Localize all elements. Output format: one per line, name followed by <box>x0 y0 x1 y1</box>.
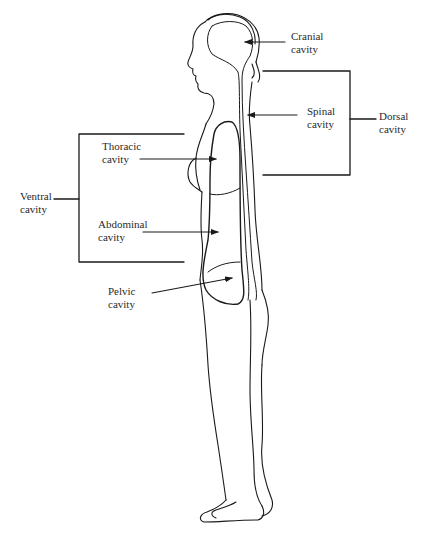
pelvic-cavity-label: Pelvic cavity <box>108 285 136 311</box>
body-figure <box>0 0 428 559</box>
abdominal-cavity-label: Abdominal cavity <box>98 218 148 244</box>
cranial-cavity-label: Cranial cavity <box>291 30 323 56</box>
ventral-cavity-label: Ventral cavity <box>20 190 52 216</box>
thoracic-cavity-label: Thoracic cavity <box>102 140 141 166</box>
dorsal-cavity-outline <box>208 22 257 301</box>
pelvic-arrow <box>152 278 232 293</box>
spinal-cavity-label: Spinal cavity <box>307 105 335 131</box>
ventral-cavity-outline <box>203 122 244 305</box>
body-outline <box>188 14 273 522</box>
pointer-arrows <box>140 42 297 293</box>
dorsal-cavity-label: Dorsal cavity <box>379 110 408 136</box>
